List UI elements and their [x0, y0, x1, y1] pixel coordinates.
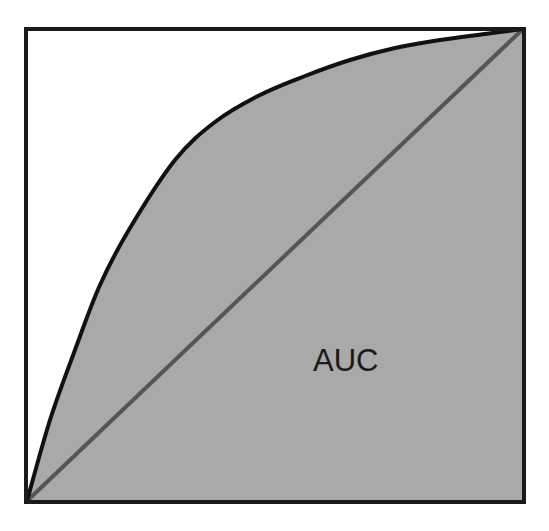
roc-diagram: AUC: [0, 0, 549, 531]
auc-label: AUC: [313, 343, 378, 378]
